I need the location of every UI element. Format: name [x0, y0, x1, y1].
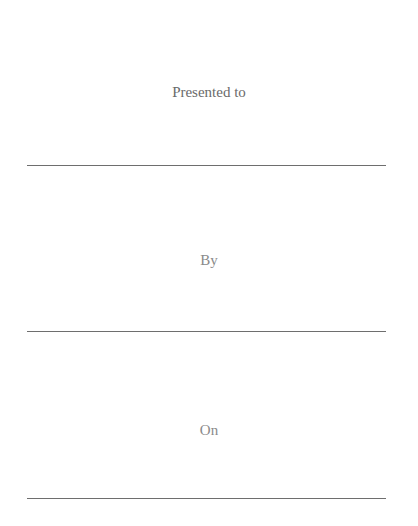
presented-to-line[interactable]	[27, 165, 386, 166]
on-line[interactable]	[27, 498, 386, 499]
by-label: By	[0, 251, 418, 269]
presented-to-label: Presented to	[0, 83, 418, 101]
by-line[interactable]	[27, 331, 386, 332]
on-label: On	[0, 421, 418, 439]
